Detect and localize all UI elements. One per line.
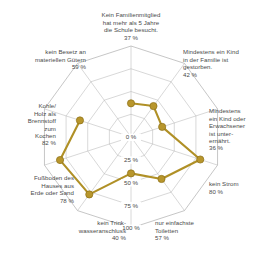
axis-spoke-6 — [78, 137, 131, 211]
axis-label-unterernaehrt-value: 36 % — [209, 144, 262, 151]
axis-label-kind-gestorben-text: Mindestens ein Kind in der Familie ist g… — [183, 48, 239, 70]
axis-label-trinkwasser-value: 40 % — [48, 234, 126, 241]
axis-label-toiletten: nur einfachste Toiletten 57 % — [155, 212, 225, 249]
data-point-toiletten — [158, 175, 165, 182]
data-point-brennstoff — [56, 156, 63, 163]
axis-label-schule-text: Kein Familienmitglied hat mehr als 5 Jah… — [102, 11, 161, 33]
axis-label-materielle-gueter-text: kein Besetz an materiellen Gütern — [35, 48, 86, 62]
tick-label-75: 75 % — [124, 202, 139, 209]
axis-label-schule: Kein Familienmitglied hat mehr als 5 Jah… — [73, 4, 189, 48]
data-point-kind-gestorben — [150, 102, 157, 109]
data-point-materielle-gueter — [76, 117, 83, 124]
tick-label-0: 0 % — [126, 133, 137, 140]
axis-label-fussboden-text: Fußboden des Hauses aus Erde oder Sand — [31, 174, 74, 196]
data-point-unterernaehrt — [159, 123, 166, 130]
axis-label-toiletten-value: 57 % — [155, 234, 225, 241]
axis-label-unterernaehrt: Mindestens ein Kind oder Erwachsener ist… — [209, 100, 262, 159]
data-point-trinkwasser — [127, 170, 134, 177]
axis-label-fussboden-value: 78 % — [2, 197, 74, 204]
axis-label-kind-gestorben-value: 42 % — [183, 71, 262, 78]
axis-label-brennstoff-text: Kohle/ Holz als Brennstoff zum Kochen — [28, 102, 56, 139]
tick-label-25: 25 % — [124, 156, 139, 163]
radar-chart: 0 %25 %50 %75 %100 % Kein Familienmitgli… — [0, 0, 262, 255]
axis-label-toiletten-text: nur einfachste Toiletten — [155, 219, 194, 233]
data-point-kein-strom — [197, 156, 204, 163]
axis-spoke-1 — [131, 63, 184, 137]
axis-label-schule-value: 37 % — [73, 34, 189, 41]
axis-label-brennstoff: Kohle/ Holz als Brennstoff zum Kochen 82… — [4, 95, 56, 154]
axis-label-kein-strom-value: 80 % — [209, 188, 262, 195]
axis-label-kind-gestorben: Mindestens ein Kind in der Familie ist g… — [183, 41, 262, 85]
data-point-fussboden — [86, 191, 93, 198]
axis-label-unterernaehrt-text: Mindestens ein Kind oder Erwachsener ist… — [209, 107, 246, 144]
axis-label-brennstoff-value: 82 % — [4, 139, 56, 146]
axis-label-trinkwasser: kein Trink- wasseranschluss 40 % — [48, 212, 126, 249]
axis-label-materielle-gueter-value: 59 % — [4, 63, 86, 70]
axis-label-fussboden: Fußboden des Hauses aus Erde oder Sand 7… — [2, 167, 74, 211]
axis-label-trinkwasser-text: kein Trink- wasseranschluss — [79, 219, 126, 233]
data-point-schule — [127, 100, 134, 107]
axis-label-materielle-gueter: kein Besetz an materiellen Gütern 59 % — [4, 41, 86, 78]
axis-label-kein-strom: kein Strom 80 % — [209, 173, 262, 203]
tick-label-50: 50 % — [124, 179, 139, 186]
axis-label-kein-strom-text: kein Strom — [209, 180, 239, 187]
